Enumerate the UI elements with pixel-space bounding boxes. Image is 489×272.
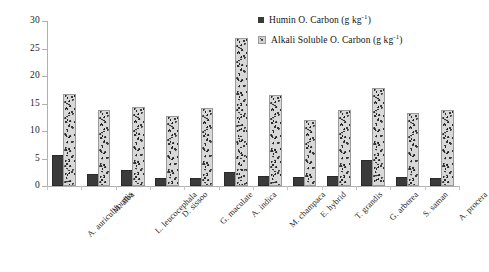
- y-axis-tick-label: 10: [2, 126, 40, 136]
- x-axis-tick: [425, 186, 426, 190]
- bar-group: [425, 21, 459, 186]
- y-axis-tick-label: 25: [2, 44, 40, 54]
- x-axis-tick: [219, 186, 220, 190]
- bar-group: [184, 21, 218, 186]
- x-axis-tick: [47, 186, 48, 190]
- x-axis-tick: [253, 186, 254, 190]
- bar-alkali-soluble: [201, 108, 214, 186]
- chart-legend: Humin O. Carbon (g kg-1)Alkali Soluble O…: [258, 12, 403, 52]
- x-axis-category-label: S. saman: [421, 190, 450, 219]
- bar-alkali-soluble: [63, 94, 76, 186]
- bar-alkali-soluble: [166, 116, 179, 186]
- y-axis-tick-label: 20: [2, 71, 40, 81]
- legend-swatch-humin: [258, 17, 264, 23]
- bar-alkali-soluble: [372, 88, 385, 186]
- x-axis-tick: [390, 186, 391, 190]
- x-axis-category-label: A. indica: [249, 190, 278, 219]
- y-axis-tick-label: 0: [2, 181, 40, 191]
- legend-item: Humin O. Carbon (g kg-1): [258, 12, 403, 27]
- legend-item: Alkali Soluble O. Carbon (g kg-1): [258, 32, 403, 47]
- x-axis-tick: [81, 186, 82, 190]
- legend-swatch-alkali: [258, 36, 266, 44]
- y-axis-tick-label: 15: [2, 99, 40, 109]
- bar-alkali-soluble: [407, 113, 420, 187]
- y-axis-tick-label: 30: [2, 16, 40, 26]
- x-axis-tick: [150, 186, 151, 190]
- bar-alkali-soluble: [304, 120, 317, 186]
- x-axis-category-label: A. procera: [457, 190, 489, 222]
- x-axis-tick: [322, 186, 323, 190]
- x-axis-tick: [459, 186, 460, 190]
- x-axis-category-label: T. grandis: [353, 190, 384, 221]
- bar-group: [150, 21, 184, 186]
- bar-alkali-soluble: [441, 110, 454, 186]
- legend-label: Alkali Soluble O. Carbon (g kg-1): [271, 35, 403, 45]
- bar-group: [219, 21, 253, 186]
- bar-group: [47, 21, 81, 186]
- bar-alkali-soluble: [269, 95, 282, 186]
- x-axis-tick: [356, 186, 357, 190]
- x-axis-tick: [287, 186, 288, 190]
- x-axis-category-label: M. alba: [110, 190, 135, 215]
- legend-label: Humin O. Carbon (g kg-1): [269, 15, 371, 25]
- bar-alkali-soluble: [235, 38, 248, 186]
- x-axis-tick: [116, 186, 117, 190]
- bar-alkali-soluble: [132, 107, 145, 186]
- x-axis-category-label: G. arborea: [388, 190, 420, 222]
- x-axis-category-label: G. maculate: [218, 190, 254, 226]
- bar-alkali-soluble: [98, 110, 111, 186]
- bar-alkali-soluble: [338, 110, 351, 186]
- y-axis-tick-label: 5: [2, 154, 40, 164]
- x-axis-tick: [184, 186, 185, 190]
- bar-group: [81, 21, 115, 186]
- bar-group: [116, 21, 150, 186]
